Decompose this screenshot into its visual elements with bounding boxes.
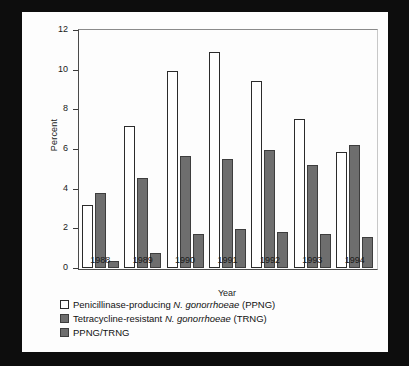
bar-group (121, 30, 163, 268)
bar-group (249, 30, 291, 268)
legend-swatch-white (60, 300, 69, 309)
x-axis-tick-label: 1988 (80, 255, 120, 265)
legend-item: PPNG/TRNG (60, 325, 380, 339)
y-axis-tick-label: 4 (63, 183, 68, 193)
image-background: Percent 024681012 1988198919901991199219… (0, 0, 409, 366)
bar-trng-1990 (180, 156, 191, 268)
bar-group (164, 30, 206, 268)
bar-ppng-1993 (294, 119, 305, 268)
y-axis-tick-label: 6 (63, 143, 68, 153)
y-axis-tick-label: 10 (58, 64, 68, 74)
figure-panel: Percent 024681012 1988198919901991199219… (22, 12, 388, 352)
legend-label: Penicillinase-producing N. gonorrhoeae (… (73, 299, 275, 310)
y-axis-tick-label: 12 (58, 24, 68, 34)
legend-label: Tetracycline-resistant N. gonorrhoeae (T… (73, 313, 267, 324)
bar-ppng-1990 (167, 71, 178, 268)
x-axis-tick-label: 1992 (250, 255, 290, 265)
bar-ppng-1989 (124, 126, 135, 268)
x-axis-tick-label: 1989 (123, 255, 163, 265)
bar-group (291, 30, 333, 268)
legend-label: PPNG/TRNG (73, 327, 129, 338)
y-axis-tick-label: 8 (63, 103, 68, 113)
y-axis-tick-label: 2 (63, 222, 68, 232)
bar-chart: Percent 024681012 1988198919901991199219… (22, 12, 388, 272)
bar-ppng-1991 (209, 52, 220, 268)
bar-group (334, 30, 376, 268)
bar-ppng-1994 (336, 152, 347, 268)
bar-trng-1993 (307, 165, 318, 268)
bar-trng-1994 (349, 145, 360, 268)
x-axis-tick-label: 1990 (165, 255, 205, 265)
y-axis-tick-label: 0 (63, 262, 68, 272)
legend-swatch-gray (60, 314, 69, 323)
bar-trng-1991 (222, 159, 233, 268)
x-axis-tick-label: 1994 (335, 255, 375, 265)
y-axis-label: Percent (49, 95, 59, 175)
legend-item: Penicillinase-producing N. gonorrhoeae (… (60, 297, 380, 311)
legend-swatch-gray (60, 328, 69, 337)
bar-group (79, 30, 121, 268)
bar-group (206, 30, 248, 268)
bar-trng-1992 (264, 150, 275, 268)
x-axis-tick-label: 1991 (208, 255, 248, 265)
bar-ppng-1992 (251, 81, 262, 268)
x-axis-tick-label: 1993 (292, 255, 332, 265)
chart-legend: Penicillinase-producing N. gonorrhoeae (… (60, 297, 380, 339)
bars-layer (79, 30, 376, 268)
legend-item: Tetracycline-resistant N. gonorrhoeae (T… (60, 311, 380, 325)
